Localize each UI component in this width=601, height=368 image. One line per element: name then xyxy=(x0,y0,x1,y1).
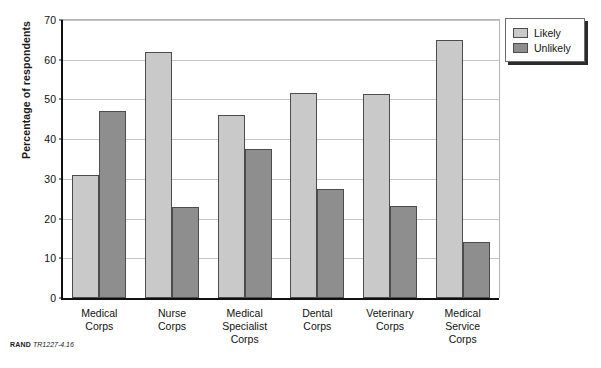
bar-likely xyxy=(145,52,172,298)
plot-right-border xyxy=(499,19,500,298)
chart-legend: LikelyUnlikely xyxy=(505,18,585,62)
legend-swatch-icon xyxy=(513,43,528,53)
x-axis-group-label: Dental Corps xyxy=(302,307,332,333)
source-brand: RAND xyxy=(10,341,31,348)
bar-unlikely xyxy=(99,111,126,298)
legend-item-unlikely[interactable]: Unlikely xyxy=(513,40,577,55)
source-reference: TR1227-4.16 xyxy=(33,341,74,348)
y-axis-tick-label: 0 xyxy=(50,292,56,304)
bar-likely xyxy=(290,93,317,298)
y-axis-tick-label: 60 xyxy=(44,54,56,66)
x-axis-group-label: Nurse Corps xyxy=(158,307,186,333)
x-axis-group-label: Medical Corps xyxy=(81,307,117,333)
bar-series-group xyxy=(63,20,499,298)
x-axis-group-label: Medical Specialist Corps xyxy=(222,307,267,346)
legend-item-likely[interactable]: Likely xyxy=(513,25,577,40)
bar-unlikely xyxy=(172,207,199,298)
bar-unlikely xyxy=(245,149,272,298)
bar-likely xyxy=(363,94,390,298)
y-axis-tick-label: 50 xyxy=(44,93,56,105)
y-axis-tick-label: 40 xyxy=(44,133,56,145)
bar-unlikely xyxy=(463,242,490,298)
bar-likely xyxy=(218,115,245,298)
y-axis-tick-label: 70 xyxy=(44,14,56,26)
legend-item-label: Unlikely xyxy=(534,42,571,54)
legend-item-label: Likely xyxy=(534,27,561,39)
y-axis-tick-label: 30 xyxy=(44,173,56,185)
y-axis-title: Percentage of respondents xyxy=(20,0,32,200)
bar-likely xyxy=(72,175,99,298)
y-axis-tick-label: 20 xyxy=(44,213,56,225)
plot-area: 010203040506070 Medical CorpsNurse Corps… xyxy=(61,20,499,300)
x-axis-group-label: Medical Service Corps xyxy=(445,307,481,346)
source-note: RANDTR1227-4.16 xyxy=(10,341,74,348)
bar-likely xyxy=(436,40,463,298)
x-axis-group-label: Veterinary Corps xyxy=(366,307,413,333)
y-axis-tick-label: 10 xyxy=(44,252,56,264)
legend-swatch-icon xyxy=(513,28,528,38)
bar-chart-figure: Percentage of respondents 01020304050607… xyxy=(0,0,601,368)
bar-unlikely xyxy=(390,206,417,298)
bar-unlikely xyxy=(317,189,344,298)
